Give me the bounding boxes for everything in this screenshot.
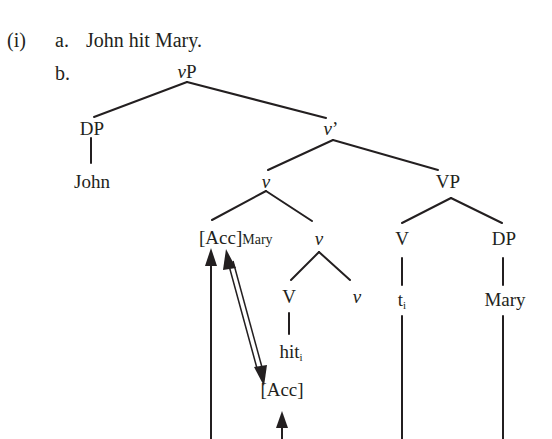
hit-index: i — [300, 351, 303, 363]
node-v-bar: v’ — [324, 119, 339, 138]
syntax-tree-figure: (i) a. John hit Mary. b. vP DP John v’ v… — [0, 0, 552, 439]
node-vP: vP — [177, 62, 196, 81]
example-b-label: b. — [55, 63, 70, 83]
acc-bracket: [Acc] — [199, 227, 242, 248]
example-a-label: a. — [55, 30, 69, 50]
long-up-arrow — [205, 248, 217, 439]
leaf-mary: Mary — [484, 290, 525, 309]
node-spec-DP: DP — [80, 119, 104, 138]
leaf-trace: ti — [398, 290, 406, 309]
node-VP: VP — [436, 172, 460, 191]
acc-mary-subscript: Mary — [242, 232, 272, 247]
leaf-john: John — [74, 172, 110, 191]
node-v-complex: v — [262, 172, 270, 191]
example-a-sentence: John hit Mary. — [86, 30, 202, 50]
node-vP-suffix: P — [186, 61, 197, 82]
trace-index: i — [403, 299, 406, 311]
hit-text: hit — [279, 341, 299, 362]
node-head-V: V — [282, 287, 296, 306]
node-v-bar-prime: ’ — [332, 118, 338, 139]
acc-feature: [Acc] — [260, 380, 303, 399]
node-acc-mary: [Acc]Mary — [199, 228, 273, 247]
node-v-inner: v — [315, 229, 323, 248]
tree-branches — [0, 0, 552, 439]
short-up-arrow — [276, 411, 288, 439]
node-vp-DP: DP — [492, 229, 516, 248]
leaf-hit: hiti — [279, 342, 302, 361]
node-vp-V: V — [395, 229, 409, 248]
node-head-v: v — [353, 287, 361, 306]
example-number: (i) — [7, 30, 26, 50]
double-arrow — [223, 249, 267, 386]
